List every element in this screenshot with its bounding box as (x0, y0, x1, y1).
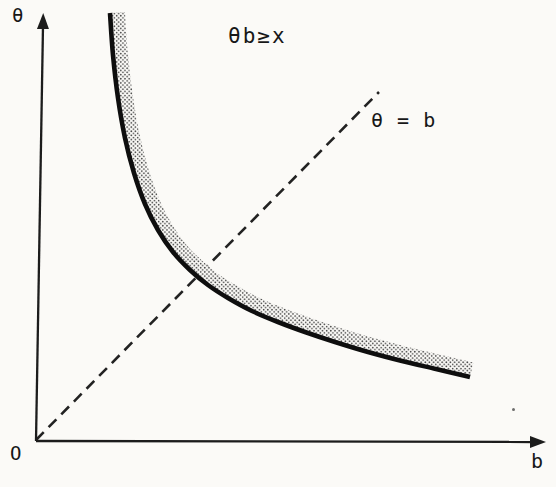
region-label: θb≥x (228, 24, 287, 48)
x-axis-label: b (531, 449, 543, 473)
y-axis-label: θ (12, 4, 23, 26)
origin-label: O (10, 442, 21, 464)
plot-canvas (0, 0, 556, 487)
identity-line-label: θ = b (371, 108, 436, 132)
ink-speck (512, 408, 515, 411)
scanned-plot-figure: θ θb≥x θ = b O b (0, 0, 556, 487)
